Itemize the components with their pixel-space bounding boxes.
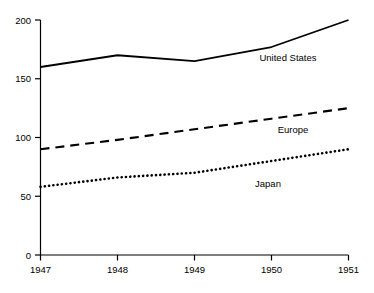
x-axis-tick-labels: 1947 1948 1949 1950 1951: [30, 264, 359, 275]
x-tick-label-1950: 1950: [261, 264, 282, 275]
y-tick-label-0: 0: [26, 250, 31, 261]
y-tick-label-200: 200: [15, 15, 31, 26]
x-tick-label-1948: 1948: [107, 264, 128, 275]
y-axis-tick-labels: 200 150 100 50 0: [15, 15, 31, 261]
y-axis-ticks: [35, 20, 41, 255]
series-group: [41, 20, 349, 187]
y-tick-label-50: 50: [20, 191, 31, 202]
x-tick-label-1951: 1951: [338, 264, 359, 275]
line-chart: 200 150 100 50 0 1947 1948 1949 1950 195…: [0, 0, 374, 293]
y-tick-label-150: 150: [15, 73, 31, 84]
series-line-japan: [41, 149, 349, 187]
chart-canvas: 200 150 100 50 0 1947 1948 1949 1950 195…: [0, 0, 374, 293]
x-tick-label-1947: 1947: [30, 264, 51, 275]
x-axis-ticks: [41, 255, 349, 261]
series-label-europe: Europe: [278, 124, 309, 135]
x-tick-label-1949: 1949: [184, 264, 205, 275]
y-tick-label-100: 100: [15, 132, 31, 143]
series-label-japan: Japan: [255, 178, 281, 189]
series-label-united-states: United States: [259, 52, 316, 63]
